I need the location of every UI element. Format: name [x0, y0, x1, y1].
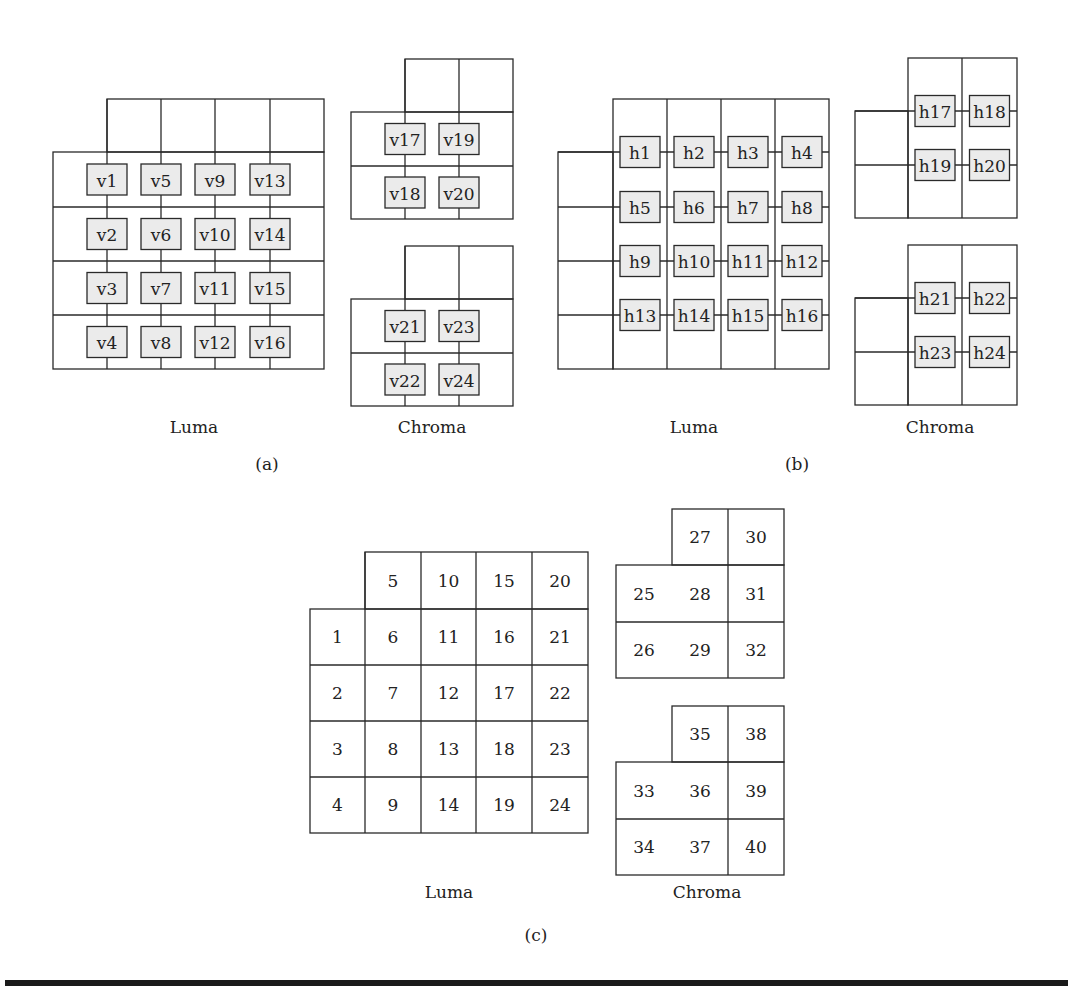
- cell-number: 2: [332, 683, 343, 703]
- edge-label: v11: [198, 279, 230, 299]
- edge-label: h8: [791, 198, 813, 218]
- cell-number: 34: [633, 837, 655, 857]
- edge-label: v3: [96, 279, 117, 299]
- edge-label: h5: [629, 198, 651, 218]
- edge-label: h18: [973, 102, 1006, 122]
- cell-number: 31: [745, 584, 767, 604]
- cell-number: 6: [388, 627, 399, 647]
- edge-label: h22: [973, 289, 1006, 309]
- edge-label: v8: [150, 333, 171, 353]
- edge-label: v7: [150, 279, 171, 299]
- edge-label: v9: [204, 171, 225, 191]
- cell-number: 30: [745, 527, 767, 547]
- deblocking-edge-diagram: v1v2v3v4v5v6v7v8v9v10v11v12v13v14v15v16L…: [0, 0, 1072, 1004]
- edge-label: h9: [629, 252, 651, 272]
- edge-label: v16: [253, 333, 285, 353]
- edge-label: h15: [732, 306, 765, 326]
- luma-label: Luma: [425, 882, 474, 902]
- edge-label: h4: [791, 143, 813, 163]
- cell-number: 16: [493, 627, 515, 647]
- panel-a-chroma-bottom: v21v22v23v24: [351, 246, 513, 406]
- cell-number: 1: [332, 627, 343, 647]
- edge-label: h24: [973, 343, 1006, 363]
- panel-b-chroma-bottom: h21h22h23h24: [855, 245, 1017, 405]
- cell-number: 11: [438, 627, 460, 647]
- cell-number: 33: [633, 781, 655, 801]
- edge-label: h1: [629, 143, 651, 163]
- edge-label: h23: [919, 343, 952, 363]
- edge-label: v15: [253, 279, 285, 299]
- panel-a-luma: v1v2v3v4v5v6v7v8v9v10v11v12v13v14v15v16L…: [53, 99, 324, 437]
- edge-label: v12: [198, 333, 230, 353]
- edge-label: v24: [442, 371, 474, 391]
- cell-number: 17: [493, 683, 515, 703]
- cell-number: 36: [689, 781, 711, 801]
- cell-number: 15: [493, 571, 515, 591]
- cell-number: 29: [689, 640, 711, 660]
- edge-label: h16: [786, 306, 819, 326]
- cell-number: 38: [745, 724, 767, 744]
- caption-c: (c): [525, 925, 548, 945]
- cell-number: 25: [633, 584, 655, 604]
- panel-b-luma: h1h2h3h4h5h6h7h8h9h10h11h12h13h14h15h16L…: [558, 99, 829, 437]
- cell-number: 7: [388, 683, 399, 703]
- edge-label: v6: [150, 225, 171, 245]
- edge-label: v13: [253, 171, 285, 191]
- edge-label: h20: [973, 156, 1006, 176]
- cell-number: 14: [438, 795, 460, 815]
- cell-number: 40: [745, 837, 767, 857]
- chroma-label: Chroma: [673, 882, 742, 902]
- edge-label: h6: [683, 198, 705, 218]
- caption-b: (b): [785, 454, 809, 474]
- cell-number: 35: [689, 724, 711, 744]
- cell-number: 4: [332, 795, 343, 815]
- edge-label: h17: [919, 102, 952, 122]
- cell-number: 19: [493, 795, 515, 815]
- edge-label: h3: [737, 143, 759, 163]
- edge-label: v23: [442, 317, 474, 337]
- cell-number: 3: [332, 739, 343, 759]
- edge-label: v21: [388, 317, 420, 337]
- edge-label: v17: [388, 130, 420, 150]
- bottom-rule: [5, 980, 1068, 986]
- edge-label: h2: [683, 143, 705, 163]
- edge-label: h13: [624, 306, 657, 326]
- edge-label: v20: [442, 184, 474, 204]
- edge-label: v2: [96, 225, 117, 245]
- cell-number: 24: [549, 795, 571, 815]
- edge-label: v4: [96, 333, 117, 353]
- edge-label: h19: [919, 156, 952, 176]
- cell-number: 39: [745, 781, 767, 801]
- edge-label: v1: [96, 171, 117, 191]
- cell-number: 18: [493, 739, 515, 759]
- panel-b-chroma-top: h17h18h19h20: [855, 58, 1017, 218]
- edge-label: h7: [737, 198, 759, 218]
- edge-label: v18: [388, 184, 420, 204]
- cell-number: 21: [549, 627, 571, 647]
- cell-number: 10: [438, 571, 460, 591]
- cell-number: 32: [745, 640, 767, 660]
- cell-number: 26: [633, 640, 655, 660]
- cell-number: 8: [388, 739, 399, 759]
- cell-number: 12: [438, 683, 460, 703]
- edge-label: v19: [442, 130, 474, 150]
- edge-label: v22: [388, 371, 420, 391]
- edge-label: v5: [150, 171, 171, 191]
- cell-number: 28: [689, 584, 711, 604]
- panel-a: v1v2v3v4v5v6v7v8v9v10v11v12v13v14v15v16L…: [53, 59, 513, 474]
- panel-c-chroma-bottom: 3538333639343740: [616, 706, 784, 875]
- chroma-label: Chroma: [398, 417, 467, 437]
- cell-number: 5: [388, 571, 399, 591]
- chroma-label: Chroma: [906, 417, 975, 437]
- edge-label: h12: [786, 252, 819, 272]
- cell-number: 9: [388, 795, 399, 815]
- edge-label: h14: [678, 306, 711, 326]
- panel-c: 510152016111621271217223813182349141924L…: [310, 509, 784, 945]
- luma-label: Luma: [670, 417, 719, 437]
- panel-a-chroma-top: v17v18v19v20: [351, 59, 513, 219]
- cell-number: 22: [549, 683, 571, 703]
- edge-label: h21: [919, 289, 952, 309]
- cell-number: 37: [689, 837, 711, 857]
- panel-c-chroma-top: 2730252831262932: [616, 509, 784, 678]
- panel-c-luma: 510152016111621271217223813182349141924L…: [310, 552, 588, 902]
